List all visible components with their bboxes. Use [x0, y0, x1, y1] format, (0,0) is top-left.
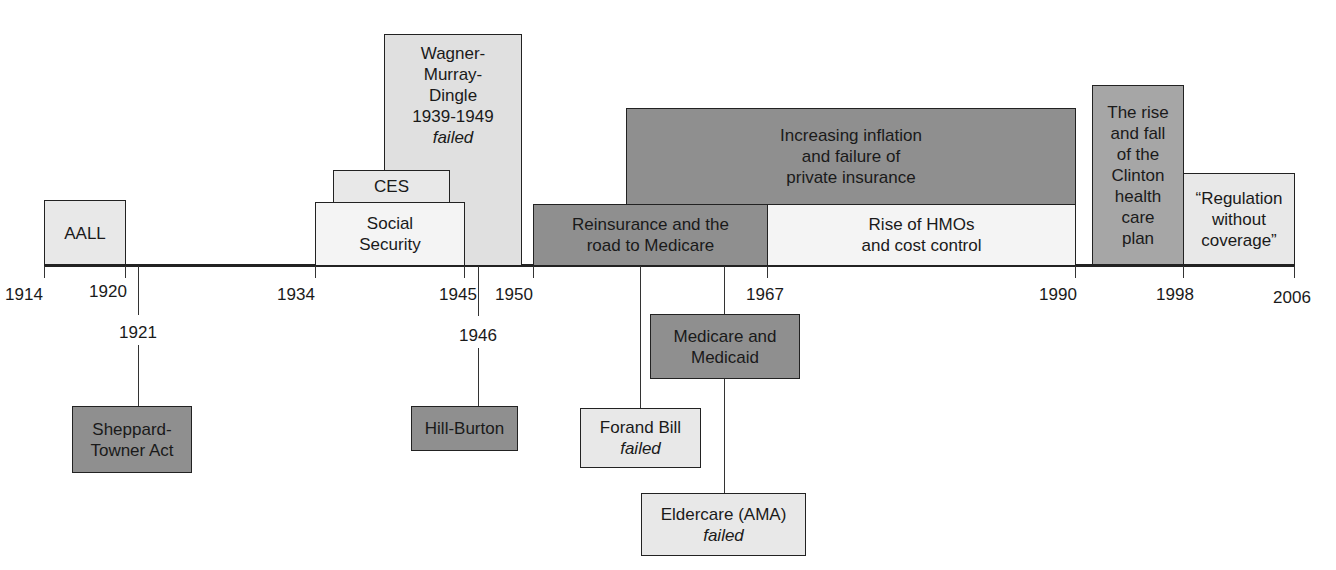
connector-1946-lower: [478, 348, 479, 406]
inflation-box: Increasing inflation and failure of priv…: [626, 108, 1076, 205]
medicare-line-2: Medicaid: [691, 347, 759, 368]
inflation-line-3: private insurance: [786, 167, 915, 188]
connector-1921-lower: [138, 345, 139, 406]
reinsurance-line-2: road to Medicare: [587, 235, 715, 256]
clinton-line-2: and fall: [1111, 123, 1166, 144]
reinsurance-box: Reinsurance and the road to Medicare: [533, 204, 768, 266]
hmos-box: Rise of HMOs and cost control: [767, 204, 1076, 266]
eldercare-status: failed: [703, 525, 744, 546]
hill-burton-box: Hill-Burton: [411, 406, 518, 451]
forand-bill-box: Forand Bill failed: [580, 408, 701, 468]
regulation-line-1: “Regulation: [1196, 188, 1283, 209]
tick-1990: [1075, 266, 1076, 278]
clinton-line-6: care: [1121, 207, 1154, 228]
hmos-line-1: Rise of HMOs: [869, 214, 975, 235]
tick-1998: [1183, 266, 1184, 278]
aall-box: AALL: [44, 200, 126, 266]
regulation-line-2: without: [1212, 209, 1266, 230]
tick-1945: [464, 266, 465, 278]
year-1914: 1914: [5, 285, 43, 305]
year-2006: 2006: [1273, 288, 1311, 308]
tick-1914: [44, 266, 45, 278]
social-security-box: Social Security: [315, 202, 465, 266]
year-1921: 1921: [119, 323, 157, 343]
tick-1920: [125, 266, 126, 278]
connector-1946-upper: [478, 266, 479, 316]
tick-1934: [315, 266, 316, 278]
tick-1950: [533, 266, 534, 278]
year-1950: 1950: [495, 285, 533, 305]
sheppard-towner-box: Sheppard- Towner Act: [72, 406, 192, 473]
ces-label: CES: [374, 176, 409, 197]
social-security-line-2: Security: [359, 234, 420, 255]
sheppard-line-1: Sheppard-: [92, 419, 171, 440]
clinton-line-7: plan: [1122, 228, 1154, 249]
inflation-line-2: and failure of: [802, 146, 900, 167]
hill-burton-label: Hill-Burton: [425, 418, 504, 439]
aall-label: AALL: [64, 223, 106, 244]
eldercare-label: Eldercare (AMA): [661, 504, 787, 525]
wagner-line-2: Murray-: [424, 64, 483, 85]
year-1945: 1945: [439, 285, 477, 305]
year-1920: 1920: [89, 282, 127, 302]
forand-label: Forand Bill: [600, 417, 681, 438]
tick-2006: [1294, 266, 1295, 278]
tick-1967: [767, 266, 768, 278]
sheppard-line-2: Towner Act: [90, 440, 173, 461]
hmos-line-2: and cost control: [861, 235, 981, 256]
clinton-line-1: The rise: [1107, 102, 1168, 123]
year-1934: 1934: [277, 285, 315, 305]
inflation-line-1: Increasing inflation: [780, 125, 922, 146]
wagner-status: failed: [433, 127, 474, 148]
connector-medicare-upper: [724, 266, 725, 315]
connector-eldercare: [724, 379, 725, 494]
year-1946: 1946: [459, 326, 497, 346]
year-1990: 1990: [1039, 285, 1077, 305]
wagner-line-3: Dingle: [429, 85, 477, 106]
clinton-line-3: of the: [1117, 144, 1160, 165]
reinsurance-line-1: Reinsurance and the: [572, 214, 729, 235]
wagner-line-4: 1939-1949: [412, 106, 493, 127]
regulation-box: “Regulation without coverage”: [1183, 173, 1295, 266]
wagner-line-1: Wagner-: [421, 43, 486, 64]
clinton-box: The rise and fall of the Clinton health …: [1092, 85, 1184, 266]
connector-forand: [640, 266, 641, 408]
clinton-line-5: health: [1115, 186, 1161, 207]
regulation-line-3: coverage”: [1201, 230, 1277, 251]
forand-status: failed: [620, 438, 661, 459]
year-1998: 1998: [1156, 285, 1194, 305]
year-1967: 1967: [746, 285, 784, 305]
eldercare-box: Eldercare (AMA) failed: [641, 493, 806, 556]
medicare-line-1: Medicare and: [673, 326, 776, 347]
connector-1921-upper: [138, 266, 139, 315]
social-security-line-1: Social: [367, 213, 413, 234]
ces-box: CES: [333, 170, 450, 203]
medicare-medicaid-box: Medicare and Medicaid: [650, 314, 800, 379]
clinton-line-4: Clinton: [1112, 165, 1165, 186]
